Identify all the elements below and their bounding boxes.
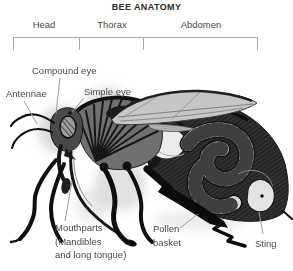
label-mouthparts-line1: Mouthparts xyxy=(55,221,126,235)
label-mouthparts-line2: (Mandibles xyxy=(55,235,126,249)
leader-antennae xyxy=(24,101,37,124)
bee-anatomy-diagram: BEE ANATOMY Head Thorax Abdomen xyxy=(0,0,293,271)
label-pollen-line1: Pollen xyxy=(153,222,181,236)
sting-tip xyxy=(283,211,292,219)
label-pollen-basket: Pollen basket xyxy=(153,222,181,249)
simple-eye xyxy=(68,111,72,115)
label-compound-eye: Compound eye xyxy=(32,64,96,78)
label-simple-eye: Simple eye xyxy=(84,85,131,99)
label-mouthparts: Mouthparts (Mandibles and long tongue) xyxy=(55,221,126,262)
label-antennae: Antennae xyxy=(6,87,47,101)
bee-illustration xyxy=(0,0,293,271)
label-pollen-line2: basket xyxy=(153,236,181,250)
label-sting: Sting xyxy=(255,237,277,251)
label-mouthparts-line3: and long tongue) xyxy=(55,248,126,262)
